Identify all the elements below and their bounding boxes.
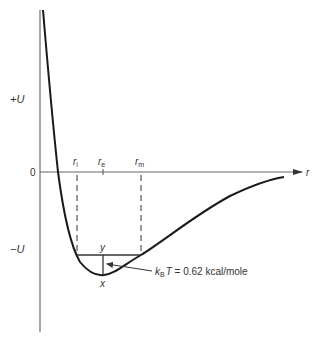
kbt-annotation: kBT = 0.62 kcal/mole bbox=[155, 266, 248, 278]
minus-u-label: −U bbox=[10, 243, 24, 255]
point-x-label: x bbox=[99, 278, 106, 289]
point-y-label: y bbox=[99, 242, 106, 253]
r-e-label: re bbox=[98, 156, 105, 168]
r-axis-label: r bbox=[306, 167, 310, 178]
r-m-label: rm bbox=[135, 156, 144, 168]
r-i-label: ri bbox=[73, 156, 78, 168]
plus-u-label: +U bbox=[10, 93, 24, 105]
origin-label: 0 bbox=[30, 167, 36, 178]
potential-curve bbox=[43, 10, 284, 275]
potential-energy-diagram: +U −U 0 r ri re rm y x kBT = 0.62 kcal/m… bbox=[0, 0, 314, 340]
annotation-arrow bbox=[107, 264, 152, 271]
